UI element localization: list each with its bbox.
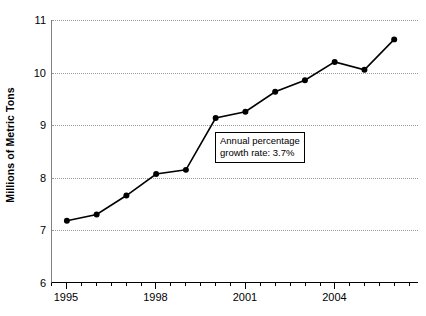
- y-axis-title: Millions of Metric Tons: [0, 0, 20, 290]
- y-axis-tick-label: 6: [40, 277, 46, 289]
- y-axis-tick-label: 8: [40, 172, 46, 184]
- y-axis-tick-labels: 67891011: [22, 0, 46, 290]
- data-point-marker: [183, 167, 189, 173]
- data-point-marker: [213, 115, 219, 121]
- x-axis-minor-tick: [51, 283, 52, 286]
- x-axis-tick-labels: 1995199820012004: [51, 291, 418, 307]
- y-axis-title-text: Millions of Metric Tons: [4, 87, 16, 202]
- data-point-marker: [123, 193, 129, 199]
- annotation-line-2: growth rate: 3.7%: [220, 147, 300, 159]
- x-axis-tick-label: 1995: [54, 291, 78, 303]
- data-point-marker: [361, 67, 367, 73]
- x-axis-tick-label: 2001: [233, 291, 257, 303]
- data-point-marker: [64, 218, 70, 224]
- x-axis-minor-tick: [290, 283, 291, 286]
- data-point-marker: [332, 59, 338, 65]
- x-axis-minor-tick: [275, 283, 276, 286]
- data-point-marker: [272, 89, 278, 95]
- x-axis-minor-tick: [230, 283, 231, 286]
- x-axis-minor-tick: [126, 283, 127, 286]
- x-axis-minor-tick: [185, 283, 186, 286]
- x-axis-tick-label: 1998: [143, 291, 167, 303]
- x-axis-major-tick: [155, 283, 156, 289]
- data-point-marker: [153, 171, 159, 177]
- x-axis-minor-tick: [111, 283, 112, 286]
- x-axis-minor-tick: [141, 283, 142, 286]
- x-axis-major-tick: [66, 283, 67, 289]
- data-point-marker: [94, 211, 100, 217]
- x-axis-minor-tick: [96, 283, 97, 286]
- x-axis-minor-tick: [81, 283, 82, 286]
- x-axis-minor-tick: [320, 283, 321, 286]
- x-axis-major-tick: [334, 283, 335, 289]
- data-point-marker: [242, 109, 248, 115]
- x-axis-minor-tick: [409, 283, 410, 286]
- x-axis-minor-tick: [260, 283, 261, 286]
- series-polyline: [67, 39, 394, 220]
- data-point-marker: [302, 77, 308, 83]
- x-axis-minor-tick: [379, 283, 380, 286]
- annotation-line-1: Annual percentage: [220, 135, 300, 147]
- line-chart-figure: Millions of Metric Tons 67891011 1995199…: [0, 0, 426, 316]
- x-axis-minor-tick: [170, 283, 171, 286]
- x-axis-minor-tick: [364, 283, 365, 286]
- x-axis-minor-tick: [200, 283, 201, 286]
- y-axis-tick-label: 11: [35, 14, 46, 26]
- x-axis-minor-tick: [349, 283, 350, 286]
- y-axis-tick-label: 10: [34, 67, 46, 79]
- x-axis-minor-tick: [394, 283, 395, 286]
- x-axis-ticks: [51, 283, 418, 290]
- y-axis-tick-label: 9: [40, 119, 46, 131]
- x-axis-minor-tick: [305, 283, 306, 286]
- x-axis-tick-label: 2004: [322, 291, 346, 303]
- x-axis-minor-tick: [215, 283, 216, 286]
- y-axis-tick-label: 7: [40, 224, 46, 236]
- growth-rate-annotation: Annual percentage growth rate: 3.7%: [215, 132, 305, 163]
- x-axis-major-tick: [245, 283, 246, 289]
- data-point-marker: [391, 36, 397, 42]
